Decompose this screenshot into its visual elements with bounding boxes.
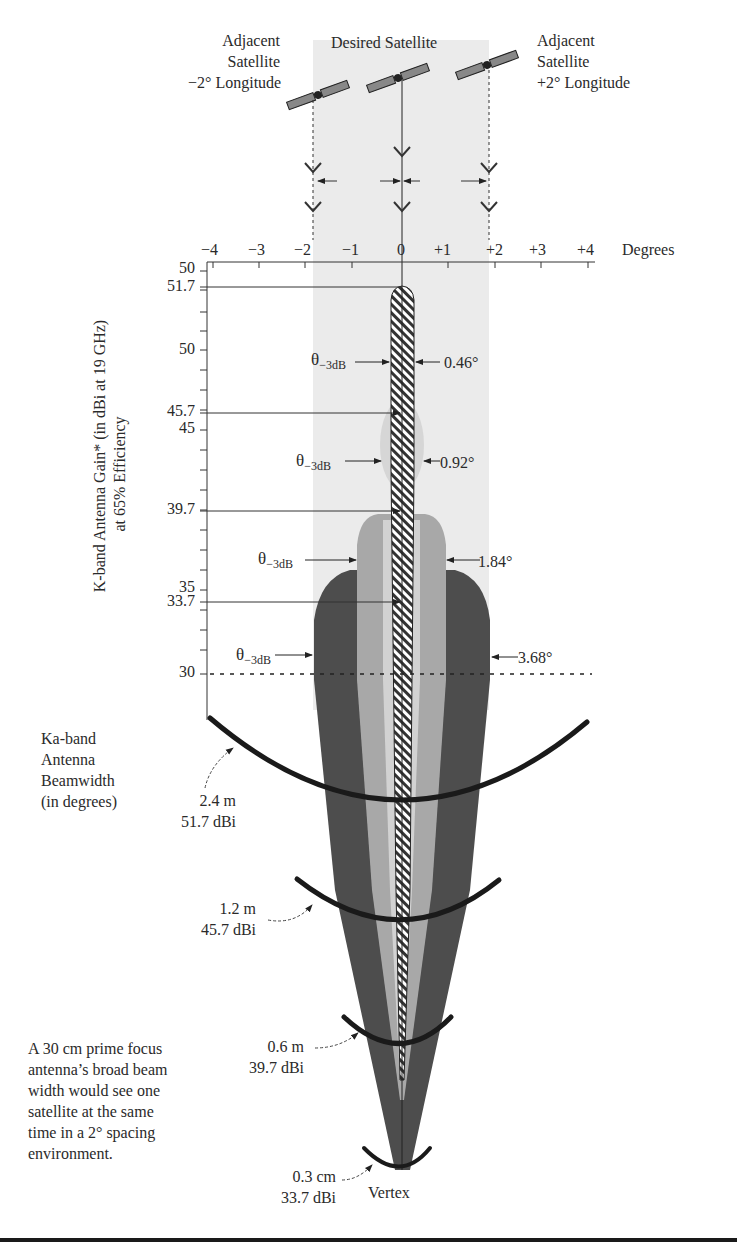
y-tick: 50: [145, 340, 195, 358]
antenna-0-3cm-label: 0.3 cm33.7 dBi: [250, 1166, 336, 1208]
y-axis-subtitle: at 65% Efficiency: [111, 304, 129, 644]
y-tick: 51.7: [145, 277, 195, 295]
x-tick: −2: [294, 241, 311, 259]
adjacent-right-label: Adjacent Satellite +2° Longitude: [537, 30, 630, 93]
note-text: A 30 cm prime focus antenna’s broad beam…: [28, 1038, 168, 1164]
x-axis-unit: Degrees: [622, 241, 674, 259]
beamwidth-value: 0.92°: [440, 452, 474, 473]
antenna-0-6m-label: 0.6 m39.7 dBi: [218, 1036, 304, 1078]
beamwidth-value: 3.68°: [518, 647, 552, 668]
y-tick: 30: [145, 663, 195, 681]
x-tick: +3: [529, 241, 546, 259]
desired-satellite-label: Desired Satellite: [331, 32, 437, 53]
y-tick: 45.7: [145, 402, 195, 420]
theta-label: θ−3dB: [311, 350, 346, 373]
x-tick: +4: [577, 241, 594, 259]
x-tick: −4: [201, 241, 218, 259]
x-tick: +1: [434, 241, 451, 259]
beamwidth-title: Ka-band Antenna Beamwidth (in degrees): [41, 728, 117, 812]
vertex-label: Vertex: [368, 1182, 410, 1203]
y-tick: 50: [145, 259, 195, 277]
adjacent-left-label: Adjacent Satellite −2° Longitude: [188, 30, 280, 93]
theta-label: θ−3dB: [236, 645, 271, 668]
antenna-1-2m-label: 1.2 m45.7 dBi: [170, 898, 256, 940]
antenna-2-4m-label: 2.4 m51.7 dBi: [150, 790, 236, 832]
theta-label: θ−3dB: [258, 549, 293, 572]
beamwidth-value: 1.84°: [478, 551, 512, 572]
y-axis-title: K-band Antenna Gain* (in dBi at 19 GHz): [91, 286, 109, 626]
theta-label: θ−3dB: [296, 451, 331, 474]
y-tick: 45: [145, 419, 195, 437]
x-tick: +2: [486, 241, 503, 259]
x-tick: 0: [397, 241, 405, 259]
x-tick: −3: [248, 241, 265, 259]
beamwidth-value: 0.46°: [444, 352, 478, 373]
y-tick: 33.7: [145, 592, 195, 610]
y-tick: 39.7: [145, 500, 195, 518]
x-tick: −1: [342, 241, 359, 259]
